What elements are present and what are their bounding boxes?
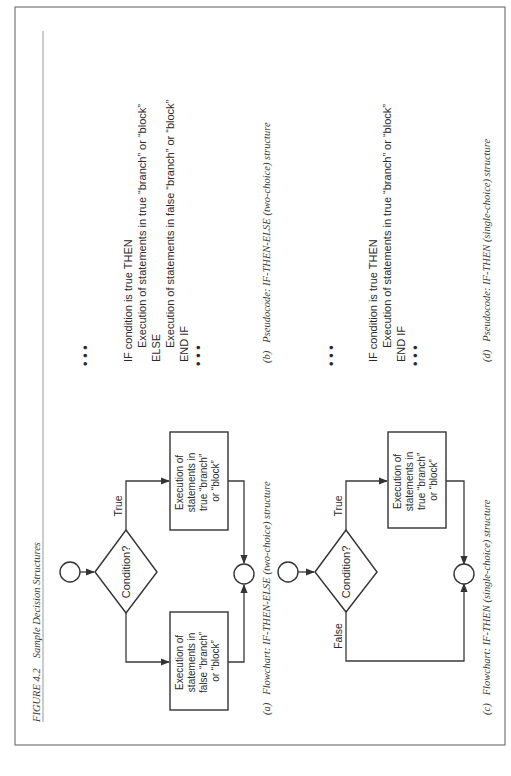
true-to-merge-line <box>228 481 244 563</box>
code-line-true-exec: Execution of statements in true “branch”… <box>136 104 148 348</box>
true-label: True <box>332 495 344 516</box>
panel-d-pseudocode: • • • IF condition is true THEN Executio… <box>324 101 493 366</box>
panel-b-pseudocode: • • • IF condition is true THEN Executio… <box>78 97 273 366</box>
code-line-false-exec: Execution of statements in false “branch… <box>164 99 176 348</box>
figure-title-text: Sample Decision Structures <box>31 542 42 658</box>
start-circle <box>60 562 80 582</box>
panel-a-flowchart: Condition? True Execution of statements … <box>60 432 273 715</box>
figure-canvas: FIGURE 4.2Sample Decision Structures Con… <box>0 0 511 776</box>
decision-label: Condition? <box>120 546 132 599</box>
caption-c: (c)Flowchart: IF-THEN (single-choice) st… <box>481 499 493 715</box>
pseudocode-lines: IF condition is true THEN Execution of s… <box>122 97 190 362</box>
false-branch-line <box>346 584 464 661</box>
caption-a: (a)Flowchart: IF-THEN-ELSE (two-choice) … <box>261 481 273 715</box>
true-label: True <box>112 495 124 516</box>
code-line-endif: END IF <box>395 326 407 362</box>
start-circle <box>278 562 298 582</box>
ellipsis-bottom: • • • <box>408 345 423 366</box>
page-frame <box>15 7 505 745</box>
ellipsis-bottom: • • • <box>191 345 206 366</box>
true-branch-line <box>346 481 387 530</box>
figure-title: FIGURE 4.2Sample Decision Structures <box>31 542 42 723</box>
pseudocode-lines: IF condition is true THEN Execution of s… <box>367 101 407 362</box>
code-line-else: ELSE <box>150 334 162 362</box>
panel-c-flowchart: Condition? True Execution of statements … <box>278 432 493 715</box>
true-to-merge-line <box>446 481 464 564</box>
code-line-if: IF condition is true THEN <box>367 239 379 362</box>
code-line-endif: END IF <box>178 326 190 362</box>
code-line-true-exec: Execution of statements in true “branch”… <box>381 104 393 348</box>
false-label: False <box>332 623 344 649</box>
ellipsis-top: • • • <box>324 345 339 366</box>
ellipsis-top: • • • <box>78 345 93 366</box>
false-branch-line <box>126 613 169 662</box>
merge-circle <box>454 564 474 584</box>
figure-number: FIGURE 4.2 <box>31 668 42 723</box>
true-branch-line <box>126 481 169 530</box>
decision-label: Condition? <box>340 546 352 599</box>
caption-b: (b)Pseudocode: IF-THEN-ELSE (two-choice)… <box>261 122 273 363</box>
code-line-if: IF condition is true THEN <box>122 239 134 362</box>
merge-circle <box>234 564 254 584</box>
false-to-merge-line <box>228 585 244 662</box>
caption-d: (d)Pseudocode: IF-THEN (single-choice) s… <box>481 139 493 362</box>
